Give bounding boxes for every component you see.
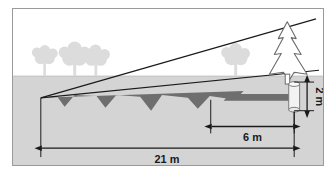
- screenshot-root: 2 m 6 m 21 m: [0, 0, 336, 174]
- shadow-diagram-svg: 2 m 6 m 21 m: [13, 9, 323, 165]
- ground-region: [13, 76, 323, 165]
- dimension-label-post-height: 2 m: [314, 88, 323, 107]
- measuring-post: [289, 82, 300, 112]
- dimension-label-6m: 6 m: [243, 131, 262, 143]
- measuring-post-body: [289, 84, 300, 110]
- measuring-post-bottom-cap: [289, 107, 300, 112]
- shadow-strip-to-post: [224, 94, 291, 101]
- diagram-frame: 2 m 6 m 21 m: [12, 8, 324, 166]
- dimension-label-21m: 21 m: [155, 153, 180, 165]
